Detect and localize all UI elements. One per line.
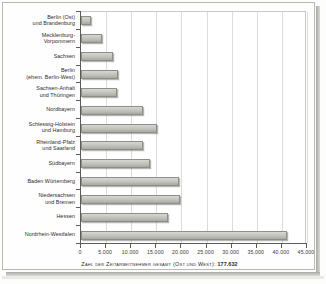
bar [81, 88, 117, 97]
gridline [257, 12, 258, 243]
category-label: Rheinland-Pfalzund Saarland [3, 138, 75, 151]
bar [81, 159, 150, 168]
category-label-line: Nordbayern [3, 106, 75, 112]
category-label: Nordbayern [3, 106, 75, 112]
x-axis-caption: Zahl der Zeitarbeitnehmer gesamt (Ost un… [3, 261, 316, 267]
x-tick [231, 244, 232, 248]
bar [81, 34, 102, 43]
category-label-line: Vorpommern [3, 38, 75, 44]
y-tick [76, 82, 81, 83]
x-tick [306, 244, 307, 248]
bar [81, 106, 143, 115]
category-label-line: (ehem. Berlin-West) [3, 73, 75, 79]
gridline [207, 12, 208, 243]
category-label-line: Hessen [3, 213, 75, 219]
category-label-line: und Saarland [3, 145, 75, 151]
chart-plate: 05.00010.00015.00020.00025.00030.00035.0… [2, 2, 315, 270]
category-label: Niedersachsenund Bremen [3, 192, 75, 205]
y-tick [76, 172, 81, 173]
x-tick-label: 5.000 [98, 249, 112, 255]
x-tick-label: 10.000 [122, 249, 139, 255]
category-label: Hessen [3, 213, 75, 219]
gridline [181, 12, 182, 243]
x-axis-tick-labels: 05.00010.00015.00020.00025.00030.00035.0… [3, 249, 316, 259]
category-label-line: und Thüringen [3, 91, 75, 97]
y-tick [76, 11, 81, 12]
category-label-line: und Brandenburg [3, 20, 75, 26]
x-tick-label: 15.000 [147, 249, 164, 255]
x-tick-label: 45.000 [298, 249, 315, 255]
bar [81, 124, 157, 133]
category-label-line: Nordrhein-Westfalen [3, 231, 75, 237]
gridline [307, 12, 308, 243]
bar [81, 70, 118, 79]
x-tick-label: 20.000 [172, 249, 189, 255]
bar [81, 141, 143, 150]
gridline [282, 12, 283, 243]
bar [81, 195, 180, 204]
y-tick [76, 207, 81, 208]
y-tick [76, 225, 81, 226]
bar-chart: 05.00010.00015.00020.00025.00030.00035.0… [3, 3, 316, 271]
y-tick [76, 118, 81, 119]
category-label: Sachsen [3, 52, 75, 58]
category-label: Berlin (Ost)und Brandenburg [3, 14, 75, 27]
x-tick-label: 30.000 [222, 249, 239, 255]
x-tick [80, 244, 81, 248]
bar [81, 177, 179, 186]
category-label-line: Südbayern [3, 159, 75, 165]
category-label: Mecklenburg-Vorpommern [3, 31, 75, 44]
x-tick [281, 244, 282, 248]
category-label: Berlin(ehem. Berlin-West) [3, 67, 75, 80]
category-label-line: und Hamburg [3, 127, 75, 133]
category-labels: Berlin (Ost)und BrandenburgMecklenburg-V… [3, 3, 75, 243]
x-tick [105, 244, 106, 248]
bar [81, 213, 168, 222]
y-tick [76, 243, 81, 244]
x-tick [180, 244, 181, 248]
gridline [232, 12, 233, 243]
plate-shadow-right [316, 6, 320, 274]
category-label: Südbayern [3, 159, 75, 165]
y-tick [76, 136, 81, 137]
plot-area [80, 11, 306, 243]
x-tick [130, 244, 131, 248]
category-label: Baden Würtemberg [3, 177, 75, 183]
y-tick [76, 47, 81, 48]
x-tick-label: 25.000 [197, 249, 214, 255]
x-tick [155, 244, 156, 248]
category-label: Nordrhein-Westfalen [3, 231, 75, 237]
y-tick [76, 65, 81, 66]
x-axis-total-value: 177.632 [217, 261, 237, 267]
chart-screenshot: 05.00010.00015.00020.00025.00030.00035.0… [0, 0, 326, 284]
category-label-line: und Bremen [3, 198, 75, 204]
x-axis-caption-text: Zahl der Zeitarbeitnehmer gesamt (Ost un… [81, 261, 215, 267]
category-label-line: Baden Würtemberg [3, 177, 75, 183]
y-tick [76, 29, 81, 30]
x-tick [256, 244, 257, 248]
category-label: Sachsen-Anhaltund Thüringen [3, 85, 75, 98]
y-tick [76, 100, 81, 101]
category-label: Schleswig-Holsteinund Hamburg [3, 121, 75, 134]
x-tick-label: 40.000 [272, 249, 289, 255]
plate-shadow-bottom-soft [2, 276, 324, 279]
x-tick [206, 244, 207, 248]
bar [81, 231, 287, 240]
x-tick-label: 35.000 [247, 249, 264, 255]
bar [81, 16, 91, 25]
y-tick [76, 189, 81, 190]
y-tick [76, 154, 81, 155]
bar [81, 52, 113, 61]
x-tick-label: 0 [78, 249, 81, 255]
category-label-line: Sachsen [3, 52, 75, 58]
